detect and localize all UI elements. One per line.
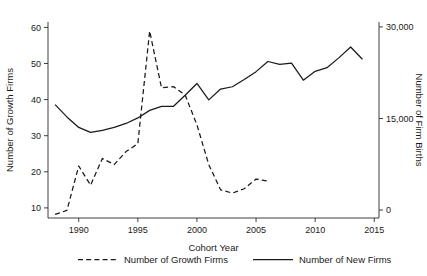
y-axis-left-tick-label: 20 bbox=[31, 167, 41, 177]
x-axis-tick-label: 2010 bbox=[305, 225, 325, 235]
y-axis-left-title: Number of Growth Firms bbox=[4, 68, 15, 172]
y-axis-left-tick-label: 30 bbox=[31, 131, 41, 141]
series-line-growth-firms bbox=[55, 31, 268, 214]
series-layer bbox=[55, 31, 362, 214]
x-axis-tick-label: 1995 bbox=[128, 225, 148, 235]
y-axis-right-tick-label: 30,000 bbox=[386, 22, 414, 32]
y-axis-left: 102030405060 bbox=[31, 23, 48, 213]
chart-figure: 102030405060 015,00030,000 1990199520002… bbox=[0, 0, 427, 276]
series-line-new-firms bbox=[55, 47, 362, 132]
y-axis-left-tick-label: 10 bbox=[31, 203, 41, 213]
dual-axis-line-chart: 102030405060 015,00030,000 1990199520002… bbox=[0, 0, 427, 276]
legend-label-new-firms: Number of New Firms bbox=[299, 254, 392, 265]
x-axis-tick-label: 2005 bbox=[246, 225, 266, 235]
y-axis-left-tick-label: 40 bbox=[31, 95, 41, 105]
x-axis-tick-label: 2000 bbox=[187, 225, 207, 235]
axis-titles: Cohort YearNumber of Growth FirmsNumber … bbox=[4, 68, 425, 253]
x-axis: 199019952000200520102015 bbox=[69, 218, 385, 235]
y-axis-left-tick-label: 60 bbox=[31, 23, 41, 33]
y-axis-left-tick-label: 50 bbox=[31, 59, 41, 69]
y-axis-right-tick-label: 15,000 bbox=[386, 114, 414, 124]
y-axis-right: 015,00030,000 bbox=[379, 22, 414, 215]
x-axis-tick-label: 1990 bbox=[69, 225, 89, 235]
x-axis-tick-label: 2015 bbox=[364, 225, 384, 235]
y-axis-right-tick-label: 0 bbox=[386, 205, 391, 215]
x-axis-title: Cohort Year bbox=[188, 242, 238, 253]
plot-frame bbox=[48, 22, 379, 218]
y-axis-right-title: Number of Firm Births bbox=[414, 74, 425, 167]
legend-label-growth-firms: Number of Growth Firms bbox=[124, 254, 228, 265]
chart-legend: Number of Growth FirmsNumber of New Firm… bbox=[78, 254, 392, 265]
